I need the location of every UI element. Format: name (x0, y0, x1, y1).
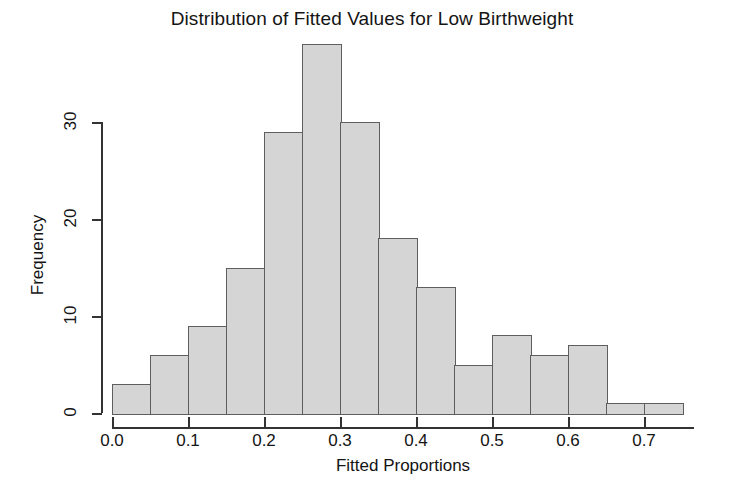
x-axis-tick-label: 0.2 (234, 431, 294, 451)
plot-area: 0.00.10.20.30.40.50.60.70102030 Fitted P… (0, 0, 744, 490)
x-axis-tick-label: 0.3 (310, 431, 370, 451)
histogram-bar (188, 326, 228, 415)
histogram-bar (226, 268, 266, 415)
y-axis-tick-label: 20 (61, 201, 81, 235)
x-axis-tick (568, 417, 570, 427)
y-axis-tick-label: 0 (61, 395, 81, 429)
x-axis-tick-label: 0.0 (82, 431, 142, 451)
histogram-bar (340, 122, 380, 415)
x-axis-tick (416, 417, 418, 427)
y-axis-line (101, 122, 103, 413)
x-axis-tick (112, 417, 114, 427)
y-axis-tick-label: 10 (61, 298, 81, 332)
y-axis-tick-label: 30 (61, 104, 81, 138)
histogram-bar (150, 355, 190, 415)
y-axis-title: Frequency (28, 175, 48, 335)
histogram-bar (416, 287, 456, 415)
x-axis-tick (188, 417, 190, 427)
x-axis-tick (340, 417, 342, 427)
histogram-bar (454, 365, 494, 415)
histogram-figure: Distribution of Fitted Values for Low Bi… (0, 0, 744, 490)
x-axis-tick-label: 0.4 (386, 431, 446, 451)
x-axis-line (112, 427, 694, 429)
histogram-bar (568, 345, 608, 415)
x-axis-tick (492, 417, 494, 427)
histogram-bar (492, 335, 532, 414)
x-axis-tick-label: 0.6 (538, 431, 598, 451)
histogram-bar (644, 403, 684, 414)
x-axis-tick-label: 0.1 (158, 431, 218, 451)
x-axis-tick (644, 417, 646, 427)
histogram-bar (378, 238, 418, 414)
histogram-bar (112, 384, 152, 415)
histogram-bar (264, 132, 304, 415)
histogram-bar (302, 44, 342, 414)
histogram-bar (606, 403, 646, 414)
histogram-bar (530, 355, 570, 415)
x-axis-tick-label: 0.5 (462, 431, 522, 451)
x-axis-tick-label: 0.7 (614, 431, 674, 451)
x-axis-title: Fitted Proportions (112, 456, 694, 476)
y-axis-tick (92, 413, 102, 415)
x-axis-tick (264, 417, 266, 427)
